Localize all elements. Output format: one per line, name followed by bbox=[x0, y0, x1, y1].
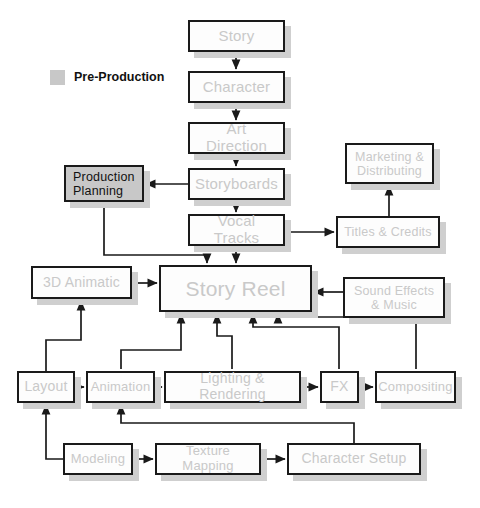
node-label-art_direction: Art Direction bbox=[190, 121, 283, 155]
node-marketing[interactable]: Marketing & Distributing bbox=[345, 143, 434, 184]
node-label-marketing: Marketing & Distributing bbox=[351, 150, 428, 178]
node-label-modeling: Modeling bbox=[67, 452, 129, 467]
modeling-to-layout bbox=[46, 405, 63, 459]
node-titles[interactable]: Titles & Credits bbox=[336, 216, 440, 248]
node-label-layout: Layout bbox=[20, 379, 71, 395]
node-label-sound_effects: Sound Effects & Music bbox=[350, 284, 438, 312]
char-setup-to-animation bbox=[121, 405, 354, 443]
node-animatic_3d[interactable]: 3D Animatic bbox=[31, 266, 132, 299]
node-label-story: Story bbox=[214, 28, 258, 45]
legend-label: Pre-Production bbox=[74, 70, 164, 84]
node-label-animatic_3d: 3D Animatic bbox=[39, 275, 124, 291]
node-label-vocal_tracks: Vocal Tracks bbox=[190, 213, 283, 247]
animation-to-story-reel bbox=[121, 314, 181, 369]
node-character[interactable]: Character bbox=[188, 71, 285, 103]
node-production_planning[interactable]: Production Planning bbox=[64, 165, 144, 202]
node-fx[interactable]: FX bbox=[320, 371, 359, 403]
lighting-to-story-reel bbox=[217, 314, 232, 369]
node-vocal_tracks[interactable]: Vocal Tracks bbox=[188, 214, 285, 246]
node-label-char_setup: Character Setup bbox=[298, 451, 411, 467]
node-label-titles: Titles & Credits bbox=[340, 225, 435, 239]
node-label-production_planning: Production Planning bbox=[66, 170, 139, 198]
node-lighting[interactable]: Lighting & Rendering bbox=[164, 371, 301, 403]
node-animation[interactable]: Animation bbox=[86, 371, 155, 403]
node-story[interactable]: Story bbox=[188, 20, 285, 52]
node-label-story_reel: Story Reel bbox=[181, 277, 289, 301]
node-label-compositing: Compositing bbox=[374, 380, 456, 395]
node-texture[interactable]: Texture Mapping bbox=[155, 443, 261, 475]
node-art_direction[interactable]: Art Direction bbox=[188, 122, 285, 154]
node-label-animation: Animation bbox=[87, 380, 155, 395]
flowchart-canvas: Pre-Production StoryCharacterArt Directi… bbox=[0, 0, 480, 508]
node-compositing[interactable]: Compositing bbox=[375, 371, 456, 403]
node-story_reel[interactable]: Story Reel bbox=[159, 265, 312, 312]
node-layout[interactable]: Layout bbox=[17, 371, 75, 403]
node-label-lighting: Lighting & Rendering bbox=[166, 371, 299, 402]
node-storyboards[interactable]: Storyboards bbox=[188, 168, 285, 200]
node-label-texture: Texture Mapping bbox=[157, 444, 259, 473]
node-modeling[interactable]: Modeling bbox=[63, 443, 133, 475]
node-sound_effects[interactable]: Sound Effects & Music bbox=[343, 277, 445, 318]
story-reel-to-titles bbox=[290, 232, 334, 246]
layout-to-animatic bbox=[46, 301, 81, 371]
node-label-character: Character bbox=[199, 79, 275, 96]
fx-to-story-reel bbox=[253, 314, 339, 369]
node-char_setup[interactable]: Character Setup bbox=[287, 443, 421, 475]
pre-production-swatch bbox=[50, 70, 65, 85]
node-label-fx: FX bbox=[326, 379, 352, 395]
node-label-storyboards: Storyboards bbox=[191, 176, 282, 193]
